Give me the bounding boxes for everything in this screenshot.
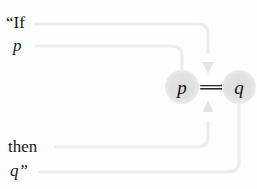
conditional-statement-figure: “If p then q” p ⟹ q [0, 0, 257, 189]
node-consequent-label: q [234, 78, 244, 97]
node-antecedent-p: p [165, 70, 199, 104]
node-consequent-q: q [222, 70, 256, 104]
wire-then-to-implies [56, 122, 208, 147]
arrowhead-down-into-implies [203, 62, 214, 74]
node-antecedent-label: p [177, 78, 187, 97]
wire-p-to-p-node [36, 46, 182, 74]
arrowhead-up-into-implies [203, 100, 214, 112]
wire-if-to-implies [36, 24, 208, 52]
statement-line-if: “If [6, 14, 25, 31]
statement-line-p: p [13, 37, 22, 54]
double-right-arrow-implies-icon: ⟹ [199, 78, 225, 96]
statement-line-q: q” [10, 162, 28, 179]
statement-line-then: then [8, 138, 37, 155]
